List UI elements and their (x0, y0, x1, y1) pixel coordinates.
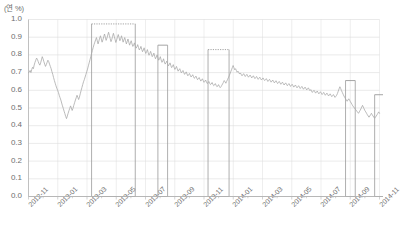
highlight-boxes (92, 24, 383, 197)
box-5-outline (375, 95, 383, 197)
gridlines (29, 20, 380, 197)
x-axis-ticks (29, 197, 380, 200)
box-2-outline (158, 45, 168, 196)
box-3-outline (208, 50, 229, 197)
box-1-outline (92, 24, 136, 197)
